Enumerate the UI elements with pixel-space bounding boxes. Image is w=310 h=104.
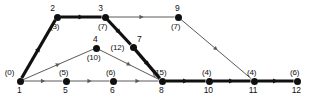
- node-time-label-10: (4): [202, 68, 211, 77]
- graph-node-4[interactable]: [93, 45, 100, 52]
- node-id-label-2: 2: [50, 4, 55, 13]
- node-id-label-6: 6: [110, 86, 115, 95]
- node-id-label-9: 9: [175, 4, 180, 13]
- node-time-label-6: (6): [106, 68, 115, 77]
- node-time-label-12: (6): [290, 68, 299, 77]
- arrowhead-2-to-3: [79, 14, 84, 19]
- activity-network-diagram: 1(0)2(3)3(7)4(10)5(5)6(6)7(12)8(15)9(7)1…: [0, 0, 310, 104]
- node-time-label-11: (4): [247, 68, 256, 77]
- graph-node-9[interactable]: [175, 14, 182, 21]
- node-id-label-12: 12: [292, 86, 301, 95]
- node-time-label-8: (15): [153, 68, 167, 77]
- graph-node-7[interactable]: [130, 44, 137, 51]
- graph-node-11[interactable]: [251, 78, 258, 85]
- graph-node-5[interactable]: [63, 78, 70, 85]
- node-id-label-11: 11: [249, 86, 258, 95]
- node-id-label-8: 8: [159, 86, 164, 95]
- arrowhead-3-to-9: [139, 15, 143, 19]
- arrowhead-1-to-5: [41, 79, 45, 83]
- graph-node-6[interactable]: [110, 78, 117, 85]
- node-time-label-1: (0): [5, 68, 14, 77]
- graph-node-12[interactable]: [294, 78, 301, 85]
- node-time-label-3: (7): [98, 22, 107, 31]
- node-id-label-3: 3: [98, 4, 103, 13]
- node-time-label-4: (10): [87, 53, 101, 62]
- arrowhead-11-to-12: [273, 78, 278, 83]
- node-time-label-9: (7): [171, 22, 180, 31]
- graph-node-10[interactable]: [206, 78, 213, 85]
- node-time-label-5: (5): [59, 68, 68, 77]
- arrowhead-8-to-10: [183, 78, 188, 83]
- node-id-label-1: 1: [17, 86, 22, 95]
- node-time-label-7: (12): [110, 43, 124, 52]
- graph-canvas: [0, 0, 310, 104]
- arrowhead-5-to-6: [87, 79, 91, 83]
- node-id-label-4: 4: [93, 35, 98, 44]
- arrowhead-10-to-11: [229, 78, 234, 83]
- node-time-label-2: (3): [50, 22, 59, 31]
- graph-node-1[interactable]: [17, 78, 24, 85]
- node-id-label-10: 10: [204, 86, 213, 95]
- graph-node-3[interactable]: [102, 14, 109, 21]
- node-id-label-5: 5: [63, 86, 68, 95]
- node-id-label-7: 7: [137, 35, 142, 44]
- graph-node-8[interactable]: [159, 78, 166, 85]
- graph-node-2[interactable]: [54, 14, 61, 21]
- arrowhead-6-to-8: [135, 79, 139, 83]
